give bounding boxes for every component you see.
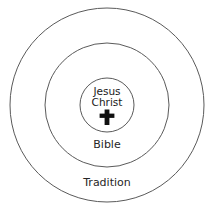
outer-ring-label: Tradition — [82, 176, 131, 189]
concentric-circles-diagram: Jesus Christ Bible Tradition — [0, 0, 217, 210]
diagram-canvas: Jesus Christ Bible Tradition — [0, 0, 217, 210]
inner-label-line2: Christ — [92, 96, 123, 108]
cross-icon — [100, 110, 115, 126]
middle-ring-label: Bible — [93, 138, 121, 151]
